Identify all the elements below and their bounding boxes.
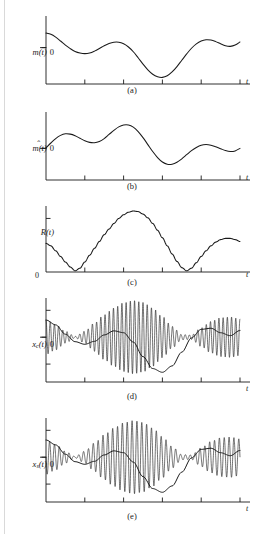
panel-c-y-label: R(t) [6,228,54,237]
panel-d-y-label: xc(t)0 [4,340,54,349]
panel-c-y-label-text: R(t) [41,227,54,237]
panel-d-caption: (d) [0,392,264,401]
panel-b-y-label: ̂m(t)0 [6,144,54,153]
panel-d-y-label-tail: (t) [39,339,47,349]
panel-a-y-label-text: m(t) [33,47,47,57]
panel-c-caption: (c) [0,278,264,287]
panel-d-zero-label: 0 [50,339,54,349]
figure-root: m(t)0 t (a) ̂m(t)0 t (b) R(t) 0 t (c) xc… [0,0,264,534]
panel-a-y-label: m(t)0 [6,48,54,57]
panel-b-x-label: t [246,174,248,182]
panel-b-zero-label: 0 [50,143,54,153]
panel-a-zero-label: 0 [50,47,54,57]
panel-e-y-label-tail: (t) [39,459,47,469]
panel-b-caption: (b) [0,182,264,191]
panel-a-caption: (a) [0,86,264,95]
panel-e-caption: (e) [0,512,264,521]
panel-b-hat-group: ̂m(t) [33,144,47,153]
panel-a-x-label: t [246,78,248,86]
panel-e-y-label: xs(t)0 [4,460,54,469]
hat-accent-icon: ̂ [33,140,45,149]
panel-e-zero-label: 0 [50,459,54,469]
